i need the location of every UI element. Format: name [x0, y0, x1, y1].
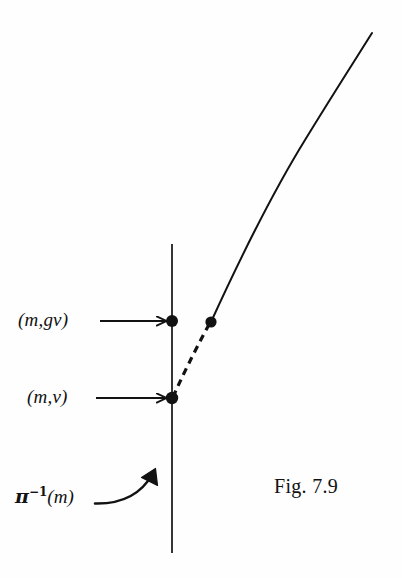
- curved-arrow-head: [142, 469, 158, 486]
- dashed-arc: [173, 326, 209, 398]
- figure-container: (m,gv) (m,v) π−1(m) Fig. 7.9: [0, 0, 402, 578]
- point-curve-start: [205, 316, 216, 327]
- point-m-gv: [166, 315, 178, 327]
- annotation-pi-inverse: π−1(m): [15, 485, 74, 508]
- annotation-m-v: (m,v): [27, 386, 68, 408]
- point-m-v: [166, 392, 178, 404]
- figure-caption: Fig. 7.9: [274, 475, 338, 498]
- pi-exponent: −1: [29, 485, 47, 499]
- pi-argument: (m): [47, 486, 73, 507]
- annotation-m-gv: (m,gv): [18, 309, 68, 331]
- solid-curve: [211, 33, 372, 322]
- pi-symbol: π: [15, 485, 29, 507]
